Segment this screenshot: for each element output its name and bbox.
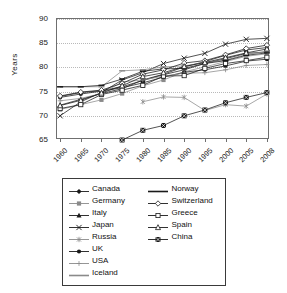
legend-label: Russia (92, 231, 116, 242)
x-tick-mark (164, 138, 165, 142)
legend-marker-dash-line (68, 270, 90, 281)
legend-swatch (147, 219, 169, 230)
legend-item-germany[interactable]: Germany (68, 194, 143, 206)
x-tick-label: 1990 (169, 146, 194, 171)
legend-label: Canada (92, 183, 120, 194)
legend-swatch (68, 219, 90, 230)
series-layer (57, 19, 270, 140)
legend-item-italy[interactable]: Italy (68, 206, 143, 218)
legend-label: Greece (171, 207, 197, 218)
legend-swatch (68, 231, 90, 242)
legend-item-switzerland[interactable]: Switzerland (147, 194, 221, 206)
legend-swatch (68, 243, 90, 254)
y-tick-label: 80 (8, 62, 48, 71)
x-tick-mark (101, 138, 102, 142)
legend-label: USA (92, 255, 108, 266)
series-germany (58, 52, 269, 112)
legend-label: Norway (171, 183, 198, 194)
legend-swatch (68, 195, 90, 206)
x-tick-label: 1960 (45, 146, 70, 171)
x-tick-mark (205, 138, 206, 142)
x-tick-label: 1965 (65, 146, 90, 171)
legend-item-china[interactable]: China (147, 230, 221, 242)
x-tick-label: 1980 (127, 146, 152, 171)
legend-label: Spain (171, 219, 191, 230)
chart-screenshot: Years 657075808590 196019651970197519801… (0, 0, 287, 293)
legend-swatch (147, 207, 169, 218)
x-tick-mark (246, 138, 247, 142)
legend-item-iceland[interactable]: Iceland (68, 266, 143, 278)
legend-item-russia[interactable]: Russia (68, 230, 143, 242)
y-tick-label: 90 (8, 14, 48, 23)
y-tick-label: 65 (8, 135, 48, 144)
legend-label: China (171, 231, 192, 242)
legend-swatch (147, 231, 169, 242)
x-tick-label: 2008 (252, 146, 277, 171)
legend-item-greece[interactable]: Greece (147, 206, 221, 218)
x-tick-mark (184, 138, 185, 142)
legend-item-canada[interactable]: Canada (68, 182, 143, 194)
legend-label: Iceland (92, 267, 118, 278)
legend-swatch (68, 255, 90, 266)
x-tick-label: 1970 (86, 146, 111, 171)
legend-item-japan[interactable]: Japan (68, 218, 143, 230)
x-tick-label: 1985 (148, 146, 173, 171)
legend-swatch (147, 183, 169, 194)
legend-item-norway[interactable]: Norway (147, 182, 221, 194)
x-tick-mark (60, 138, 61, 142)
legend-swatch (68, 267, 90, 278)
chart-legend: CanadaGermanyItalyJapanRussiaUKUSAIcelan… (62, 178, 226, 286)
plot-area (56, 18, 269, 139)
series-china (120, 90, 270, 142)
y-tick-label: 70 (8, 110, 48, 119)
legend-marker-crossed-square (147, 234, 169, 245)
legend-label: Switzerland (171, 195, 212, 206)
legend-column-right: NorwaySwitzerlandGreeceSpainChina (147, 182, 221, 278)
x-tick-mark (122, 138, 123, 142)
legend-item-spain[interactable]: Spain (147, 218, 221, 230)
legend-column-left: CanadaGermanyItalyJapanRussiaUKUSAIcelan… (68, 182, 143, 278)
x-tick-mark (81, 138, 82, 142)
legend-label: UK (92, 243, 103, 254)
x-tick-mark (143, 138, 144, 142)
x-tick-label: 2000 (210, 146, 235, 171)
legend-item-uk[interactable]: UK (68, 242, 143, 254)
legend-label: Germany (92, 195, 125, 206)
x-tick-mark (226, 138, 227, 142)
legend-swatch (147, 195, 169, 206)
x-tick-label: 2005 (231, 146, 256, 171)
x-tick-label: 1995 (189, 146, 214, 171)
life-expectancy-line-chart: Years 657075808590 196019651970197519801… (0, 0, 287, 176)
y-tick-label: 85 (8, 38, 48, 47)
y-tick-label: 75 (8, 86, 48, 95)
legend-swatch (68, 207, 90, 218)
legend-swatch (68, 183, 90, 194)
legend-item-usa[interactable]: USA (68, 254, 143, 266)
x-tick-label: 1975 (107, 146, 132, 171)
legend-label: Italy (92, 207, 107, 218)
legend-label: Japan (92, 219, 114, 230)
x-tick-mark (267, 138, 268, 142)
